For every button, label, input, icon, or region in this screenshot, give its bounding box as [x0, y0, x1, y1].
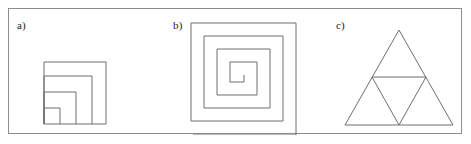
nested-square-inner [44, 108, 60, 124]
spiral-path [191, 23, 296, 135]
figure-cell-b: b) [159, 9, 319, 135]
nested-square-outer [44, 62, 106, 124]
figure-cell-a: a) [9, 9, 159, 135]
sierpinski-inner-triangle [372, 77, 426, 125]
nested-square-2 [44, 76, 92, 124]
figures-panel: a) b) c) [0, 0, 471, 144]
panel-frame: a) b) c) [8, 8, 462, 134]
nested-squares-drawing [9, 9, 159, 135]
sierpinski-triangle-drawing [319, 9, 463, 135]
figure-cell-c: c) [319, 9, 463, 135]
rectangular-spiral-drawing [159, 9, 319, 135]
